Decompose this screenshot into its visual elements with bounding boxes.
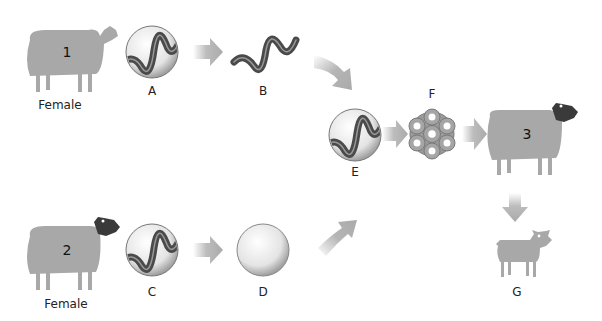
dna-b-icon: [234, 39, 296, 70]
sheep-2-icon: [27, 217, 120, 290]
sheep-2-number: 2: [63, 243, 72, 257]
embryo-f-icon: [409, 109, 455, 159]
cell-c-icon: [124, 224, 182, 276]
label-c: C: [148, 286, 156, 298]
cloning-diagram: 1 2 3 Female Female A B C D E F G: [0, 0, 602, 321]
arrow-f-to-sheep3: [462, 118, 487, 150]
arrow-b-to-e: [314, 55, 352, 90]
cell-a-icon: [124, 26, 182, 78]
arrow-c-to-d: [193, 236, 223, 264]
sheep-3-number: 3: [523, 127, 532, 141]
label-d: D: [258, 286, 267, 298]
label-b: B: [259, 85, 267, 97]
arrow-sheep3-to-g: [502, 193, 528, 222]
sheep-1-caption: Female: [38, 99, 81, 111]
label-f: F: [429, 88, 436, 100]
arrow-d-to-e: [318, 220, 357, 256]
sheep-3-icon: [487, 103, 578, 175]
cell-e-icon: [327, 109, 385, 161]
sheep-2-caption: Female: [44, 298, 87, 310]
sheep-1-number: 1: [63, 45, 72, 59]
label-g: G: [512, 286, 521, 298]
label-a: A: [148, 85, 156, 97]
lamb-g-icon: [496, 230, 552, 277]
label-e: E: [351, 166, 359, 178]
arrow-e-to-f: [382, 120, 408, 148]
egg-d-icon: [237, 224, 289, 276]
sheep-1-icon: [27, 23, 118, 92]
arrow-a-to-b: [193, 38, 223, 66]
